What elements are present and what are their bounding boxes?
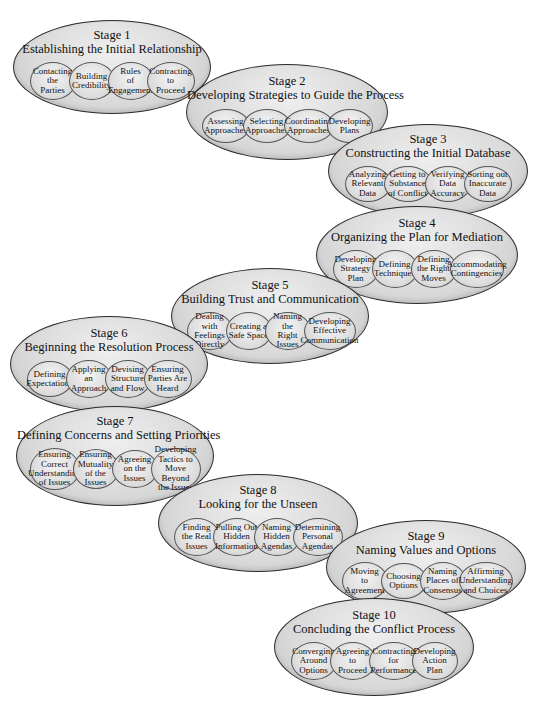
step: Sorting out Inaccurate Data: [464, 166, 512, 202]
stage-title: Defining Concerns and Setting Priorities: [17, 428, 213, 442]
stage-title: Building Trust and Communication: [172, 292, 368, 306]
stage-title: Concluding the Conflict Process: [275, 622, 473, 636]
stage-number: Stage 10: [275, 608, 473, 622]
step: Affirming Understanding and Choices: [459, 562, 513, 600]
stage-number: Stage 1: [14, 28, 210, 42]
step: Ensuring Parties Are Heard: [144, 360, 192, 398]
step: Developing Action Plan: [412, 642, 458, 680]
stage-number: Stage 8: [159, 483, 357, 497]
stage-3: Stage 3 Constructing the Initial Databas…: [328, 124, 528, 218]
stages-diagram: Stage 1 Establishing the Initial Relatio…: [0, 0, 535, 704]
stage-8-steps: Finding the Real Issues Pulling Out Hidd…: [171, 517, 345, 557]
stage-5-steps: Dealing with Feelings Directly Creating …: [182, 311, 360, 351]
stage-1: Stage 1 Establishing the Initial Relatio…: [13, 20, 211, 114]
stage-5-heading: Stage 5 Building Trust and Communication: [172, 278, 368, 307]
stage-10: Stage 10 Concluding the Conflict Process…: [274, 598, 474, 696]
stage-number: Stage 5: [172, 278, 368, 292]
stage-number: Stage 7: [17, 414, 213, 428]
stage-title: Organizing the Plan for Mediation: [317, 230, 517, 244]
step: Developing Effective Communication: [304, 312, 356, 350]
stage-1-heading: Stage 1 Establishing the Initial Relatio…: [14, 28, 210, 57]
stage-2-heading: Stage 2 Developing Strategies to Guide t…: [187, 74, 387, 103]
stage-10-steps: Converging Around Options Agreeing to Pr…: [287, 641, 461, 681]
stage-10-heading: Stage 10 Concluding the Conflict Process: [275, 608, 473, 637]
stage-3-steps: Analyzing Relevant Data Getting to Subst…: [341, 165, 515, 203]
stage-number: Stage 9: [327, 529, 525, 543]
stage-8-heading: Stage 8 Looking for the Unseen: [159, 483, 357, 512]
stage-9-steps: Moving to Agreement Choosing Options Nam…: [339, 561, 515, 601]
step: Accommodating Contingencies: [450, 250, 504, 288]
stage-title: Establishing the Initial Relationship: [14, 42, 210, 56]
stage-7-heading: Stage 7 Defining Concerns and Setting Pr…: [17, 414, 213, 443]
stage-6-heading: Stage 6 Beginning the Resolution Process: [11, 326, 207, 355]
stage-1-steps: Contacting the Parties Building Credibil…: [26, 61, 198, 101]
stage-3-heading: Stage 3 Constructing the Initial Databas…: [329, 132, 527, 161]
stage-4-heading: Stage 4 Organizing the Plan for Mediatio…: [317, 216, 517, 245]
stage-title: Constructing the Initial Database: [329, 146, 527, 160]
stage-number: Stage 6: [11, 326, 207, 340]
stage-number: Stage 2: [187, 74, 387, 88]
stage-9-heading: Stage 9 Naming Values and Options: [327, 529, 525, 558]
stage-number: Stage 4: [317, 216, 517, 230]
stage-6: Stage 6 Beginning the Resolution Process…: [10, 316, 208, 412]
stage-title: Developing Strategies to Guide the Proce…: [187, 88, 387, 102]
stage-title: Naming Values and Options: [327, 543, 525, 557]
stage-title: Beginning the Resolution Process: [11, 340, 207, 354]
stage-title: Looking for the Unseen: [159, 497, 357, 511]
stage-6-steps: Defining Expectations Applying an Approa…: [23, 359, 195, 399]
stage-number: Stage 3: [329, 132, 527, 146]
